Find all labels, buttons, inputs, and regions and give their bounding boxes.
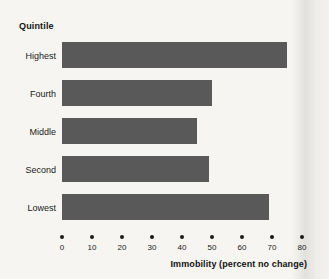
y-axis-tick-label: Second <box>8 165 56 175</box>
bar-middle <box>62 118 197 144</box>
x-axis-tick-dot <box>120 235 124 239</box>
bar-second <box>62 156 209 182</box>
x-axis-tick-dot <box>150 235 154 239</box>
bar-highest <box>62 42 287 68</box>
y-axis-tick-label: Lowest <box>8 203 56 213</box>
y-axis-group-title: Quintile <box>19 21 54 31</box>
x-axis-title: Immobility (percent no change) <box>170 259 307 269</box>
x-axis-tick-label: 10 <box>81 243 103 252</box>
x-axis-tick-dot <box>210 235 214 239</box>
x-axis-tick-label: 30 <box>141 243 163 252</box>
y-axis-tick-middle: Middle <box>8 127 56 139</box>
bar-chart: Quintile Highest Fourth Middle Second Lo… <box>0 0 329 279</box>
x-axis-tick-dot <box>180 235 184 239</box>
x-axis-tick-label: 70 <box>261 243 283 252</box>
y-axis-tick-label: Middle <box>8 127 56 137</box>
x-axis-tick-dot <box>240 235 244 239</box>
y-axis-tick-second: Second <box>8 165 56 177</box>
bar-lowest <box>62 194 269 220</box>
x-axis-tick-dot <box>60 235 64 239</box>
y-axis-tick-label: Fourth <box>8 89 56 99</box>
y-axis-tick-highest: Highest <box>8 51 56 63</box>
x-axis-tick-dot <box>300 235 304 239</box>
x-axis-tick-label: 80 <box>291 243 313 252</box>
x-axis-tick-label: 50 <box>201 243 223 252</box>
x-axis-tick-label: 60 <box>231 243 253 252</box>
y-axis-tick-fourth: Fourth <box>8 89 56 101</box>
y-axis-tick-label: Highest <box>8 51 56 61</box>
x-axis-tick-dot <box>270 235 274 239</box>
x-axis-tick-dot <box>90 235 94 239</box>
bar-fourth <box>62 80 212 106</box>
x-axis-tick-label: 0 <box>51 243 73 252</box>
x-axis-tick-label: 20 <box>111 243 133 252</box>
x-axis-tick-label: 40 <box>171 243 193 252</box>
y-axis-tick-lowest: Lowest <box>8 203 56 215</box>
